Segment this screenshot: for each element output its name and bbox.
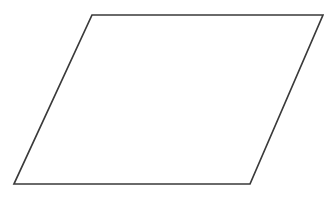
parallelogram-drawing [0, 0, 324, 198]
figure-canvas: Parallelogram [0, 0, 324, 198]
parallelogram-shape [14, 15, 323, 184]
